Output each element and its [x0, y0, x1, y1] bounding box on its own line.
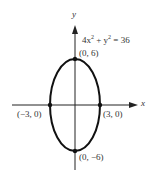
equation-label: 4x2 + y2 = 36 [82, 34, 130, 45]
point-right [98, 103, 102, 107]
x-axis-arrow-icon [129, 102, 138, 108]
y-axis-arrow-icon [72, 25, 78, 34]
point-label-right: (3, 0) [103, 110, 123, 119]
point-label-bottom: (0, −6) [79, 153, 104, 162]
point-left [48, 103, 52, 107]
point-bottom [73, 149, 77, 153]
point-label-left: (−3, 0) [17, 110, 42, 119]
point-label-top: (0, 6) [79, 49, 99, 58]
x-axis-label: x [141, 99, 145, 108]
point-top [73, 57, 77, 61]
y-axis-label: y [72, 10, 76, 19]
ellipse-graph [0, 0, 151, 180]
